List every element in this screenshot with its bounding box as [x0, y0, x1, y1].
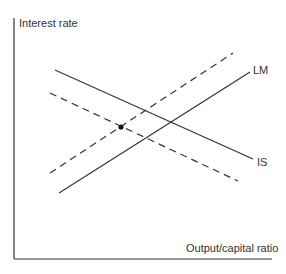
lm-curve [59, 72, 250, 193]
is-curve [55, 70, 253, 159]
is-label: IS [257, 156, 267, 168]
equilibrium-point [118, 124, 123, 129]
is-lm-diagram [0, 0, 286, 274]
lm-shifted-curve [50, 53, 233, 173]
lm-label: LM [253, 64, 268, 76]
y-axis-label: Interest rate [19, 17, 78, 29]
x-axis-label: Output/capital ratio [186, 242, 278, 254]
is-shifted-curve [50, 93, 238, 181]
